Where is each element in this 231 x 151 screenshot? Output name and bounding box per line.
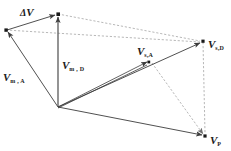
vsa-sub: s,A [144, 52, 153, 58]
vertex-marker-vsd [201, 40, 204, 43]
label-vsa: Vs,A [137, 42, 153, 58]
vector-vp [58, 107, 202, 135]
vectors-group [7, 15, 202, 135]
label-vma: Vm , A [3, 68, 25, 84]
vector-vsd [58, 43, 200, 107]
dashed-line-vsd-to-vp [203, 42, 205, 133]
vma-sub: m , A [10, 78, 25, 84]
vector-diagram-canvas [0, 0, 231, 151]
vector-diagram-figure: ΔV Vm , A Vm , D Vs,A Vs,D VP [0, 0, 231, 151]
vp-sub: P [217, 141, 221, 147]
vertex-marker-vsa [147, 61, 150, 64]
vertex-marker-vma [4, 28, 7, 31]
vsd-sub: s,D [215, 45, 224, 51]
vmd-sub: m , D [69, 66, 84, 72]
dashed-line-vma-to-vsd [6, 30, 200, 42]
label-delta-v: ΔV [20, 3, 34, 19]
dashed-line-vmd-to-vsd [58, 14, 200, 41]
vertex-marker-vmd [56, 12, 60, 16]
delta-v-base: V [26, 6, 33, 18]
dashed-line-vsa-to-vp [152, 63, 203, 134]
vertex-markers-group [4, 12, 206, 137]
vertex-marker-vp [203, 134, 206, 137]
label-vp: VP [210, 131, 221, 147]
label-vmd: Vm , D [62, 56, 84, 72]
label-vsd: Vs,D [208, 35, 224, 51]
